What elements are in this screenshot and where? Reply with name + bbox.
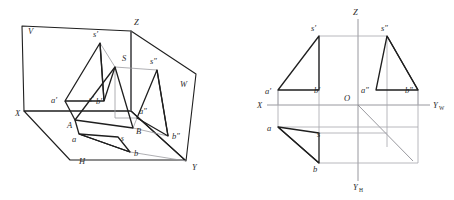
label-s-ortho: s	[317, 129, 321, 139]
figure-orthographic-projection: Z X O Y W Y H s′ s″ a′ b′ a″ b″ a s	[227, 0, 454, 200]
label-a-ortho: a	[267, 123, 271, 133]
sp-ap-bp-triangle	[278, 36, 319, 90]
S-to-spp-line	[115, 67, 157, 70]
label-Z-ortho: Z	[353, 7, 358, 17]
label-H: H	[78, 156, 86, 166]
label-b-prime: b′	[96, 96, 102, 106]
label-s-prime-ortho: s′	[311, 23, 316, 33]
orthographic-svg: Z X O Y W Y H s′ s″ a′ b′ a″ b″ a s	[227, 0, 454, 200]
label-a: a	[72, 134, 76, 144]
orthographic-labels: Z X O Y W Y H s′ s″ a′ b′ a″ b″ a s	[256, 7, 445, 193]
label-W: W	[180, 79, 188, 89]
label-O-origin: O	[344, 93, 350, 103]
label-s-double-prime-ortho: s″	[381, 23, 388, 33]
label-a-prime-ortho: a′	[265, 86, 271, 96]
label-s-prime-secondary: s′	[89, 95, 94, 104]
label-YH: Y H	[353, 182, 363, 193]
label-Y: Y	[192, 162, 198, 172]
label-V: V	[28, 26, 35, 36]
label-b-double-prime: b″	[172, 131, 180, 141]
spp-app-bpp-triangle	[376, 36, 418, 90]
profile-view-triangle	[376, 36, 418, 90]
label-YW-subscript: W	[439, 105, 445, 111]
label-S: S	[122, 53, 127, 63]
spp-to-bpp-edge-ortho	[387, 36, 418, 90]
label-s-double-prime: s″	[150, 56, 157, 66]
label-A: A	[66, 120, 73, 130]
label-X: X	[14, 108, 21, 118]
spp-to-bpp-edge	[157, 70, 168, 136]
label-Z: Z	[134, 17, 139, 27]
profile-projection-triangle	[137, 70, 168, 136]
label-YH-subscript: H	[359, 187, 363, 193]
label-b: b	[134, 148, 138, 158]
projection-planes-outline	[22, 26, 196, 161]
label-a-prime: a′	[51, 95, 57, 105]
frontal-projection-triangle	[65, 43, 104, 101]
plan-view-triangle	[278, 127, 319, 163]
screenshot-root: · · · · · · · · · · · · · · · · · · · ·	[0, 0, 454, 200]
A-to-a-link	[75, 120, 79, 134]
bp-to-S-link	[104, 67, 115, 101]
w-plane	[131, 31, 196, 161]
label-B: B	[136, 126, 141, 136]
sp-to-S-line	[100, 43, 115, 67]
label-YW: Y W	[433, 100, 445, 111]
label-b-ortho: b	[313, 164, 317, 174]
label-a-double-prime-ortho: a″	[361, 85, 369, 95]
label-X-ortho: X	[256, 100, 263, 110]
label-a-double-prime: a″	[139, 106, 147, 116]
label-s-prime: s′	[93, 29, 98, 39]
pictorial-svg: V Z W X Y H S A B s′ s″ a′ b′ s′ a″ b″ a…	[0, 0, 227, 200]
sp-to-bp-edge	[100, 43, 104, 101]
figure-pictorial-projection: V Z W X Y H S A B s′ s″ a′ b′ s′ a″ b″ a…	[0, 0, 227, 200]
label-b-double-prime-ortho: b″	[405, 85, 413, 95]
frontal-view-triangle	[278, 36, 319, 90]
label-s: s	[121, 134, 124, 143]
label-b-prime-ortho: b′	[314, 85, 320, 95]
